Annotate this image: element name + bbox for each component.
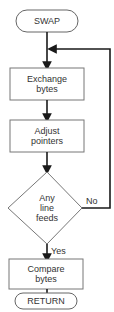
- decision-label-line1: Any: [22, 193, 72, 203]
- decision-label-line3: feeds: [22, 213, 72, 223]
- no-label: No: [86, 196, 104, 206]
- exchange-label-line1: Exchange: [10, 74, 84, 84]
- adjust-label-line2: pointers: [10, 136, 84, 146]
- compare-label: Compare bytes: [9, 264, 83, 284]
- exchange-label-line2: bytes: [10, 84, 84, 94]
- compare-label-line1: Compare: [9, 264, 83, 274]
- exchange-label: Exchange bytes: [10, 74, 84, 94]
- start-label: SWAP: [16, 16, 78, 26]
- end-label: RETURN: [15, 296, 77, 306]
- decision-label-line2: line: [22, 203, 72, 213]
- adjust-label: Adjust pointers: [10, 126, 84, 146]
- compare-label-line2: bytes: [9, 274, 83, 284]
- adjust-label-line1: Adjust: [10, 126, 84, 136]
- decision-label: Any line feeds: [22, 193, 72, 223]
- yes-label: Yes: [51, 246, 71, 256]
